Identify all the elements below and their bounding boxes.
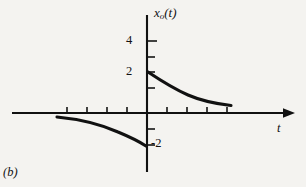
y-axis-label-suffix: (t) [164, 5, 176, 20]
x-axis-label: t [277, 122, 280, 135]
curve-negative-branch [57, 117, 146, 146]
y-tick-label-2: 2 [126, 65, 132, 78]
plot-canvas [0, 0, 306, 187]
y-tick-label-negative-2: -2 [151, 137, 161, 150]
curve-positive-branch [148, 72, 231, 106]
y-tick-label-4: 4 [126, 34, 132, 47]
y-axis-ticks [147, 41, 157, 145]
x-axis-arrow-icon [283, 108, 295, 117]
figure-caption: (b) [3, 166, 18, 179]
y-axis-label: xo(t) [154, 6, 177, 21]
figure-container: xo(t) t 4 2 -2 (b) [0, 0, 306, 187]
